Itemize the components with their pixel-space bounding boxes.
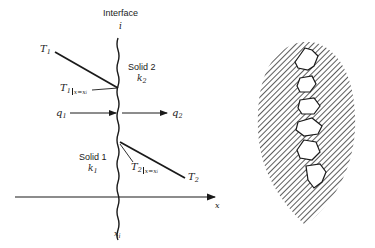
interface-line	[117, 38, 119, 240]
solid2-k: k2	[137, 74, 147, 85]
t2i-sym: T	[131, 161, 138, 172]
t1i-sub: 1	[67, 87, 71, 95]
xi-sub: i	[119, 232, 121, 240]
k2-sub: 2	[142, 77, 146, 85]
solid1-name: Solid 1	[79, 153, 107, 162]
t1-label: T1	[40, 44, 51, 56]
t1i-eval-sub: i	[86, 90, 87, 95]
xi-label: xi	[114, 230, 121, 240]
rough-contact-diagram	[250, 40, 365, 230]
q2-label: q2	[172, 108, 183, 120]
t1-sub: 1	[47, 48, 51, 56]
solid1-k: k1	[88, 164, 98, 175]
t2-interface-leader	[120, 144, 133, 162]
t2-label: T2	[188, 172, 199, 184]
t2-interface-label: T2x=xi	[131, 162, 158, 175]
t2i-eval: x=x	[145, 167, 157, 174]
t1i-eval: x=x	[74, 88, 86, 95]
t2-sub: 2	[195, 176, 199, 184]
t2i-sub: 2	[138, 166, 142, 174]
t1-interface-leader	[92, 88, 118, 90]
interface-label: Interface	[103, 9, 138, 18]
x-axis-label: x	[215, 202, 220, 210]
t1-sym: T	[40, 43, 47, 54]
t2i-eval-sub: i	[157, 169, 158, 174]
t1-interface-label: T1x=xi	[60, 83, 87, 96]
k1-sub: 1	[93, 167, 97, 175]
t2-sym: T	[188, 171, 195, 182]
interface-symbol: i	[119, 22, 122, 31]
t1i-sym: T	[60, 82, 67, 93]
solid2-name: Solid 2	[128, 63, 156, 72]
diagram-canvas	[0, 0, 375, 248]
q1-sub: 1	[62, 112, 66, 120]
q1-label: q1	[56, 108, 67, 120]
q2-sub: 2	[178, 112, 182, 120]
